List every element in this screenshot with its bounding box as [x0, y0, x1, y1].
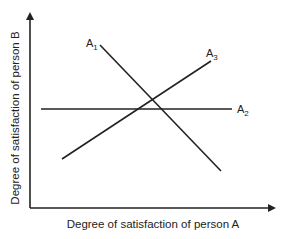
y-axis-label: Degree of satisfaction of person B [9, 31, 21, 205]
line-a2-label: A2 [237, 103, 249, 118]
satisfaction-diagram: A1 A2 A3 Degree of satisfaction of perso… [0, 0, 288, 239]
line-a1: A1 [86, 37, 221, 171]
line-a3-label: A3 [206, 47, 218, 62]
x-axis-label: Degree of satisfaction of person A [67, 218, 240, 230]
line-a3: A3 [62, 47, 218, 159]
line-a1-label: A1 [86, 37, 98, 52]
